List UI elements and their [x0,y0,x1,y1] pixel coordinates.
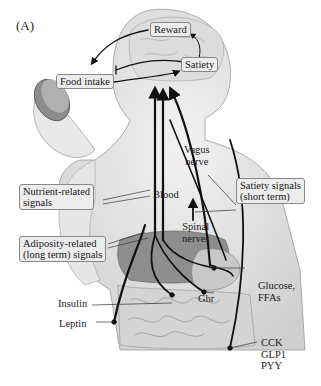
ghr-label: Ghr [198,293,214,305]
spinal-line2: nerves [182,233,209,245]
satiety-signals-line1: Satiety signals [240,180,301,191]
glucose-line1: Glucose, [258,280,295,292]
vagus-line1: Vagus [184,144,210,156]
vagus-line2: nerve [184,156,210,168]
adiposity-related-line1: Adiposity-related [23,238,102,249]
food-intake-box: Food intake [56,74,114,89]
satiety-signals-line2: (short term) [240,191,301,202]
pyy-label: PYY [261,360,286,372]
satiety-signals-box: Satiety signals (short term) [236,178,305,204]
nutrient-related-line1: Nutrient-related [23,186,90,197]
panel-label: (A) [16,18,34,34]
insulin-label: Insulin [58,298,87,310]
nutrient-related-line2: signals [23,197,90,208]
reward-box: Reward [150,22,191,37]
adiposity-related-line2: (long term) signals [23,249,102,260]
spinal-nerves-label: Spinal nerves [182,221,209,244]
appetite-regulation-figure: (A) Reward Satiety Food intake Nutrient-… [0,0,321,386]
adiposity-related-box: Adiposity-related (long term) signals [19,236,106,262]
gut-hormones-label: CCK GLP1 PYY [261,337,286,372]
blood-label: Blood [153,189,179,201]
satiety-box: Satiety [181,57,218,72]
vagus-nerve-label: Vagus nerve [184,144,210,167]
glucose-ffas-label: Glucose, FFAs [258,280,295,303]
leptin-label: Leptin [59,318,86,330]
cck-label: CCK [261,337,286,349]
spinal-line1: Spinal [182,221,209,233]
glp1-label: GLP1 [261,349,286,361]
glucose-line2: FFAs [258,292,295,304]
nutrient-related-box: Nutrient-related signals [19,184,94,210]
